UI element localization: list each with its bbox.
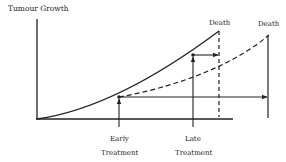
y-axis-label: Tumour Growth: [8, 4, 69, 13]
early-treatment-point: [117, 95, 121, 99]
death-label-1: Death: [209, 19, 230, 27]
death-label-2: Death: [258, 20, 279, 28]
late-treatment-label-line2: Treatment: [175, 149, 212, 157]
early-treatment-label-line1: Early: [110, 135, 129, 143]
dashed-growth-curve: [119, 35, 269, 97]
tumour-growth-diagram: [0, 0, 286, 162]
late-treatment-point: [191, 53, 195, 57]
late-treatment-label-line1: Late: [185, 135, 201, 143]
solid-growth-curve: [37, 31, 219, 119]
early-treatment-label-line2: Treatment: [101, 149, 138, 157]
